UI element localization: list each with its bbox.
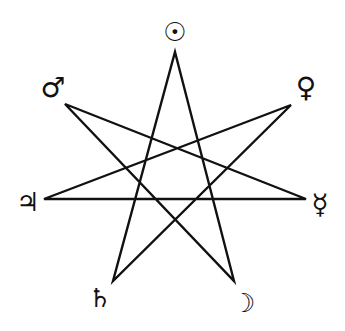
saturn-symbol-icon: ♄	[88, 285, 111, 311]
jupiter-symbol-icon: ♃	[16, 189, 39, 215]
venus-symbol-icon: ♀	[296, 74, 317, 102]
mars-symbol-icon: ♂	[40, 74, 65, 102]
sun-symbol-icon: ☉	[163, 19, 186, 45]
heptagram	[0, 0, 345, 331]
mercury-symbol-icon: ☿	[311, 191, 328, 219]
heptagram-lines	[44, 52, 306, 281]
moon-symbol-icon: ☽	[232, 290, 255, 316]
